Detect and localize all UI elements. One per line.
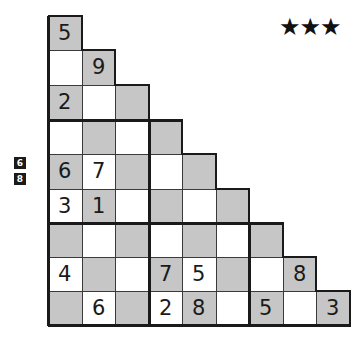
grid-cell-r6-c1[interactable] (82, 223, 116, 258)
staircase-edge (115, 84, 150, 86)
staircase-edge (316, 290, 351, 292)
staircase-edge (114, 49, 116, 86)
staircase-edge (315, 256, 317, 292)
grid-cell-r4-c1[interactable]: 7 (82, 154, 116, 190)
grid-cell-r7-c0[interactable]: 4 (48, 257, 83, 292)
box-border-line (47, 16, 50, 326)
grid-cell-r0-c0[interactable]: 5 (48, 16, 83, 51)
grid-cell-r4-c4[interactable] (182, 154, 217, 190)
puzzle-grid: 5926731475862853 (48, 16, 350, 325)
staircase-edge (216, 188, 250, 190)
staircase-edge (182, 153, 217, 155)
grid-cell-r1-c0[interactable] (48, 50, 83, 86)
grid-cell-r8-c4[interactable]: 8 (182, 291, 217, 326)
grid-cell-r6-c4[interactable] (182, 223, 217, 258)
grid-cell-r8-c7[interactable] (283, 291, 317, 326)
grid-cell-r6-c5[interactable] (216, 223, 250, 258)
grid-cell-r8-c3[interactable]: 2 (149, 291, 183, 326)
grid-cell-r7-c5[interactable] (216, 257, 250, 292)
grid-cell-r2-c1[interactable] (82, 85, 116, 121)
grid-cell-r8-c8[interactable]: 3 (316, 291, 351, 326)
grid-cell-r2-c2[interactable] (115, 85, 150, 121)
staircase-edge (148, 84, 150, 121)
staircase-edge (283, 256, 317, 258)
grid-cell-r3-c3[interactable] (149, 120, 183, 155)
grid-cell-r3-c0[interactable] (48, 120, 83, 155)
side-clue-box: 8 (14, 173, 26, 185)
staircase-edge (249, 222, 284, 224)
grid-cell-r7-c1[interactable] (82, 257, 116, 292)
grid-cell-r1-c1[interactable]: 9 (82, 50, 116, 86)
grid-cell-r5-c4[interactable] (182, 189, 217, 224)
staircase-edge (248, 188, 250, 224)
staircase-edge (282, 222, 284, 258)
grid-cell-r5-c5[interactable] (216, 189, 250, 224)
grid-cell-r6-c0[interactable] (48, 223, 83, 258)
grid-cell-r7-c4[interactable]: 5 (182, 257, 217, 292)
grid-cell-r4-c2[interactable] (115, 154, 150, 190)
side-clue-box: 6 (14, 157, 26, 169)
grid-cell-r8-c6[interactable]: 5 (249, 291, 284, 326)
grid-cell-r4-c3[interactable] (149, 154, 183, 190)
grid-cell-r5-c3[interactable] (149, 189, 183, 224)
staircase-edge (82, 49, 116, 51)
staircase-edge (181, 119, 183, 155)
grid-cell-r4-c0[interactable]: 6 (48, 154, 83, 190)
grid-cell-r8-c5[interactable] (216, 291, 250, 326)
staircase-edge (349, 290, 351, 326)
grid-cell-r2-c0[interactable]: 2 (48, 85, 83, 121)
grid-cell-r3-c1[interactable] (82, 120, 116, 155)
box-border-line (48, 324, 351, 327)
grid-cell-r8-c0[interactable] (48, 291, 83, 326)
grid-cell-r3-c2[interactable] (115, 120, 150, 155)
grid-cell-r6-c3[interactable] (149, 223, 183, 258)
grid-cell-r7-c2[interactable] (115, 257, 150, 292)
grid-cell-r7-c6[interactable] (249, 257, 284, 292)
staircase-edge (215, 153, 217, 190)
grid-cell-r8-c2[interactable] (115, 291, 150, 326)
grid-cell-r7-c3[interactable]: 7 (149, 257, 183, 292)
box-border-line (148, 120, 151, 325)
grid-cell-r8-c1[interactable]: 6 (82, 291, 116, 326)
staircase-edge (81, 15, 83, 51)
grid-cell-r5-c2[interactable] (115, 189, 150, 224)
side-clue-stack: 6 8 (14, 157, 26, 189)
grid-cell-r5-c0[interactable]: 3 (48, 189, 83, 224)
grid-cell-r6-c2[interactable] (115, 223, 150, 258)
staircase-edge (149, 119, 183, 121)
grid-cell-r5-c1[interactable]: 1 (82, 189, 116, 224)
box-border-line (248, 223, 251, 325)
grid-cell-r6-c6[interactable] (249, 223, 284, 258)
staircase-edge (48, 15, 83, 17)
grid-cell-r7-c7[interactable]: 8 (283, 257, 317, 292)
